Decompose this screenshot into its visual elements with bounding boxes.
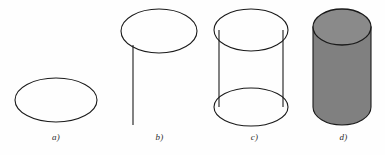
panel-b-label: b) xyxy=(112,132,207,142)
ellipse-outline xyxy=(121,9,197,53)
panel-d-drawing xyxy=(302,0,385,132)
panel-b-drawing xyxy=(112,0,207,132)
panel-b: b) xyxy=(112,0,207,155)
ellipse-outline xyxy=(15,78,97,122)
panel-c-drawing xyxy=(207,0,302,132)
cylinder-construction-figure: a) b) c) d) xyxy=(0,0,385,155)
panel-d: d) xyxy=(302,0,385,155)
ellipse-top-outline xyxy=(214,9,288,51)
panel-c-label: c) xyxy=(207,132,302,142)
panel-a: a) xyxy=(0,0,112,155)
panel-d-label: d) xyxy=(302,132,385,142)
panel-a-label: a) xyxy=(0,132,112,142)
ellipse-bottom-outline xyxy=(214,88,288,126)
cylinder-top-cap xyxy=(313,9,371,45)
panel-a-drawing xyxy=(0,0,112,132)
panel-c: c) xyxy=(207,0,302,155)
